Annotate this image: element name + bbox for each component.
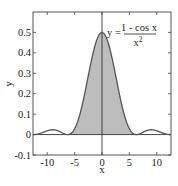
y-tick-label: -0.1: [14, 150, 31, 161]
x-tick-label: -5: [70, 157, 79, 168]
formula-annotation: y = 1 - cos x x2: [107, 22, 158, 48]
y-tick-label: 0.2: [18, 88, 31, 99]
y-tick-label: 0.1: [18, 109, 31, 120]
y-axis-label: y: [2, 81, 14, 87]
x-tick-label: -10: [40, 157, 54, 168]
y-tick-label: 0.4: [18, 47, 32, 58]
formula-numerator: 1 - cos x: [121, 22, 158, 33]
formula-denominator: x2: [134, 35, 143, 48]
chart: -10-50510 -0.100.10.20.30.40.5 x y y = 1…: [0, 0, 178, 186]
y-tick-label: 0.3: [18, 68, 31, 79]
x-tick-label: 5: [127, 157, 132, 168]
x-tick-label: 10: [152, 157, 163, 168]
plot-area: -10-50510 -0.100.10.20.30.40.5: [14, 12, 171, 168]
formula-lhs: y =: [107, 27, 121, 38]
y-tick-label: 0.5: [18, 27, 31, 38]
y-tick-label: 0: [26, 129, 31, 140]
x-axis-label: x: [99, 163, 105, 175]
